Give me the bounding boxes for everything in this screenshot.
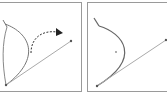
panel-after	[87, 2, 167, 92]
arrowhead-icon	[56, 28, 63, 36]
dashed-drag-arrow	[31, 32, 57, 53]
anchor-point	[96, 85, 98, 87]
diagram-after	[88, 3, 167, 93]
panel-before	[0, 2, 82, 92]
direction-handle-line	[6, 41, 71, 85]
curve-stub	[3, 20, 7, 27]
center-point	[115, 51, 117, 53]
original-curve	[3, 27, 7, 85]
direction-handle-line	[97, 40, 166, 86]
reshaped-curve	[5, 24, 29, 85]
diagram-before	[0, 3, 82, 93]
handle-endpoint	[70, 40, 72, 42]
curve-stub	[94, 18, 99, 26]
anchor-point	[5, 84, 7, 86]
